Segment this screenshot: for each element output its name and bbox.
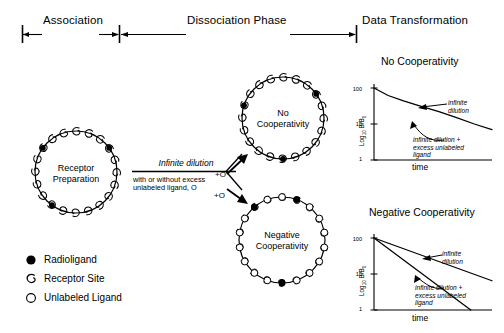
unlabeled-ligand-icon <box>306 270 313 277</box>
radioligand-icon <box>313 91 319 97</box>
association-arrowhead-left <box>23 32 29 37</box>
radioligand-icon <box>251 204 258 211</box>
negative-cooperativity-label: Negative Cooperativity <box>242 230 322 251</box>
chart0-ytick-2: 1 <box>348 156 362 162</box>
unlabeled-ligand-icon <box>264 277 271 284</box>
legend-item-radioligand: Radioligand <box>18 250 122 269</box>
chart-title-negative-cooperativity: Negative Cooperativity <box>369 206 475 218</box>
diagram-root: Association Dissociation Phase Data Tran… <box>0 0 504 333</box>
unlabeled-ligand-icon <box>264 196 271 203</box>
phase-label-dissociation: Dissociation Phase <box>187 14 287 26</box>
chart-negative-cooperativity-svg <box>352 220 502 328</box>
unlabeled-ligand-icon <box>279 194 286 201</box>
chart1-annotation-1: infinite dilution + excess unlabeled lig… <box>415 284 466 307</box>
chart-no-cooperativity: 100 10 1 Log10 B/B0 time infinite diluti… <box>352 70 502 175</box>
chart1-xlabel: time <box>412 313 428 323</box>
chart1-ytick-2: 1 <box>348 306 362 312</box>
radioligand-icon <box>106 145 112 151</box>
receptor-hook-icon <box>18 272 44 286</box>
chart-negative-cooperativity: 100 10 1 Log10 B/B0 time infinite diluti… <box>352 220 502 328</box>
phase-bar: Association Dissociation Phase Data Tran… <box>0 14 504 44</box>
open-circle-icon <box>18 291 44 305</box>
legend-item-unlabeled-ligand: Unlabeled Ligand <box>18 288 122 307</box>
phase-label-association: Association <box>43 14 103 26</box>
chart-no-cooperativity-svg <box>352 70 502 175</box>
chart0-ytick-0: 100 <box>348 86 362 92</box>
leader-1-head <box>414 275 421 283</box>
legend-label-receptor-site: Receptor Site <box>44 273 105 284</box>
radioligand-icon <box>40 145 46 151</box>
chart0-xlabel: time <box>412 162 428 172</box>
curve-infinite-dilution <box>374 88 492 130</box>
radioligand-icon <box>280 156 286 162</box>
chart0-curves <box>374 88 492 130</box>
chart0-ylabel: Log10 B/B0 <box>358 116 367 146</box>
unlabeled-ligand-icon <box>306 204 313 211</box>
radioligand-icon <box>293 196 300 203</box>
dissociation-arrowhead-right <box>349 32 356 37</box>
phase-label-data-transformation: Data Transformation <box>362 14 468 26</box>
unlabeled-ligand-icon <box>316 258 323 265</box>
branch-label-top: +O <box>215 171 226 178</box>
chart-title-no-cooperativity: No Cooperativity <box>381 55 459 67</box>
receptor-preparation-label: Receptor Preparation <box>36 163 116 184</box>
radioligand-icon <box>279 280 286 287</box>
unlabeled-ligand-icon <box>293 277 300 284</box>
chart0-annotation-leaders <box>410 104 447 140</box>
curve-0 <box>374 238 492 281</box>
legend-label-unlabeled-ligand: Unlabeled Ligand <box>44 292 122 303</box>
unlabeled-ligand-icon <box>251 270 258 277</box>
filled-circle-icon <box>18 253 44 267</box>
unlabeled-ligand-icon <box>316 215 323 222</box>
radioligand-icon <box>49 202 55 208</box>
no-cooperativity-label: No Cooperativity <box>243 108 323 129</box>
chart1-annotation-0: infinite dilution <box>442 250 463 265</box>
unlabeled-ligand-icon <box>241 258 248 265</box>
chart0-annotation-0: infinite dilution <box>448 99 469 114</box>
association-arrowhead-right <box>112 32 119 37</box>
dissociation-arrowhead-left <box>121 32 128 37</box>
chart0-annotation-1: infinite dilution + excess unlabeled lig… <box>413 136 464 159</box>
chart1-ytick-0: 100 <box>348 236 362 242</box>
legend-item-receptor-site: Receptor Site <box>18 269 122 288</box>
leader-0-head <box>418 104 427 110</box>
chart1-ylabel: Log10 B/B0 <box>358 266 367 296</box>
legend-label-radioligand: Radioligand <box>44 254 97 265</box>
unlabeled-ligand-icon <box>241 215 248 222</box>
branch-label-bottom: +O <box>214 192 225 199</box>
legend: Radioligand Receptor Site Unlabeled Liga… <box>18 250 122 307</box>
